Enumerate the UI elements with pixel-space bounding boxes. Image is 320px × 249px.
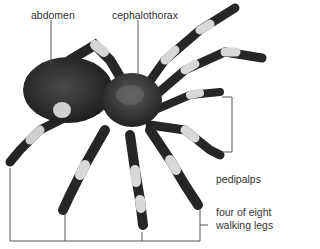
label-abdomen: abdomen [31,9,75,21]
label-walking-legs-line1: four of eight [216,206,271,218]
label-pedipalps: pedipalps [216,173,261,185]
label-walking-legs-line2: walking legs [216,219,273,231]
label-cephalothorax: cephalothorax [112,9,178,21]
